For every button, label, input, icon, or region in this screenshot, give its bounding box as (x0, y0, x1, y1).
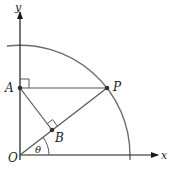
diagram-canvas: y x A P B O θ (0, 0, 174, 178)
point-B (50, 128, 55, 133)
x-axis-label: x (161, 149, 168, 162)
point-P (105, 86, 110, 91)
label-A: A (4, 81, 14, 95)
point-A (18, 86, 23, 91)
label-B: B (54, 131, 64, 145)
geometry-diagram: y x A P B O θ (0, 0, 174, 178)
label-theta: θ (35, 144, 41, 155)
label-P: P (112, 80, 122, 94)
quarter-circle-arc (7, 45, 130, 160)
label-O: O (8, 151, 18, 165)
y-axis-label: y (14, 1, 22, 14)
angle-theta-arc (43, 137, 49, 155)
